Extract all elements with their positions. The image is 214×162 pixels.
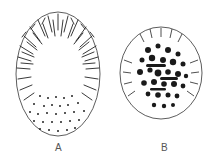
panel-a-illustration <box>16 12 100 136</box>
panel-a-label: A <box>55 142 62 153</box>
figure-canvas <box>0 0 214 162</box>
panel-b-label: B <box>161 142 168 153</box>
panel-b-illustration <box>120 27 202 119</box>
